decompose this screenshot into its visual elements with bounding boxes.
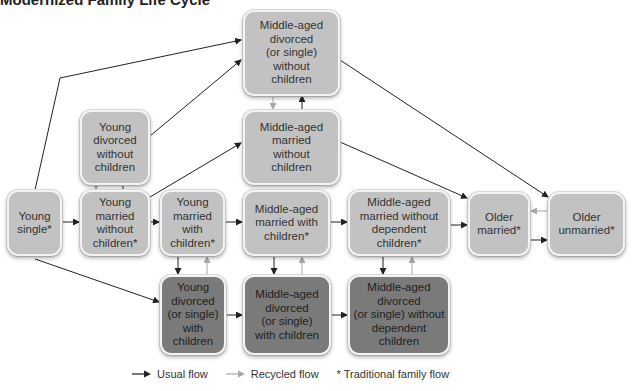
node-ma-divorced-no-children: Middle-aged divorced (or single) without… (243, 10, 340, 96)
node-older-married: Older married* (468, 192, 530, 256)
arrow-ma-divorced-to-older-unmarried (340, 60, 548, 197)
arrow-young-divorced-to-ma-divorced (150, 60, 241, 136)
legend-traditional-flow: * Traditional family flow (337, 368, 450, 380)
node-young-married-with-children: Young married with children* (160, 190, 225, 256)
node-ma-married-no-dependent-children: Middle-aged married without dependent ch… (348, 190, 450, 256)
node-young-divorced-no-children: Young divorced without children (80, 110, 150, 185)
legend-recycled-flow: Recycled flow (226, 368, 319, 380)
arrow-young-single-to-young-div-children (35, 259, 159, 302)
usual-flow-arrow-icon (132, 370, 152, 378)
node-young-divorced-with-children: Young divorced (or single) with children (160, 275, 226, 355)
node-ma-divorced-no-dependent-children: Middle-aged divorced (or single) without… (348, 275, 450, 355)
node-ma-divorced-with-children: Middle-aged divorced (or single) with ch… (243, 275, 331, 355)
recycled-flow-arrow-icon (226, 370, 246, 378)
node-young-single: Young single* (7, 190, 62, 256)
legend: Usual flow Recycled flow * Traditional f… (132, 368, 459, 380)
node-young-married-no-children: Young married without children* (80, 190, 150, 256)
node-ma-married-with-children: Middle-aged married with children* (243, 190, 330, 256)
node-older-unmarried: Older unmarried* (548, 192, 625, 256)
node-ma-married-no-children: Middle-aged married without children (243, 110, 340, 185)
arrow-young-married-to-ma-married (150, 143, 241, 197)
legend-usual-flow: Usual flow (132, 368, 208, 380)
